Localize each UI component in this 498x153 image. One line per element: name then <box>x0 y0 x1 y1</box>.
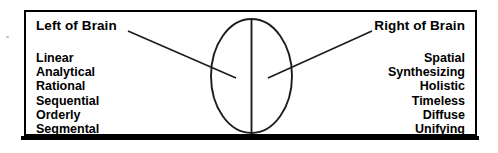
left-hemisphere-trait-list: Linear Analytical Rational Sequential Or… <box>36 51 99 136</box>
right-hemisphere-trait-list: Spatial Synthesizing Holistic Timeless D… <box>388 51 465 136</box>
trait-item: Rational <box>36 79 99 93</box>
left-hemisphere-heading: Left of Brain <box>36 18 117 33</box>
scan-artifact-speck <box>6 36 9 38</box>
trait-item: Unifying <box>388 122 465 136</box>
trait-item: Linear <box>36 51 99 65</box>
trait-item: Sequential <box>36 94 99 108</box>
trait-item: Spatial <box>388 51 465 65</box>
right-hemisphere-heading: Right of Brain <box>374 18 465 33</box>
trait-item: Synthesizing <box>388 65 465 79</box>
trait-item: Segmental <box>36 122 99 136</box>
trait-item: Orderly <box>36 108 99 122</box>
trait-item: Diffuse <box>388 108 465 122</box>
brain-hemispheres-diagram: Left of Brain Right of Brain Linear Anal… <box>0 0 498 153</box>
trait-item: Holistic <box>388 79 465 93</box>
trait-item: Analytical <box>36 65 99 79</box>
trait-item: Timeless <box>388 94 465 108</box>
panel-drop-shadow <box>21 136 479 140</box>
